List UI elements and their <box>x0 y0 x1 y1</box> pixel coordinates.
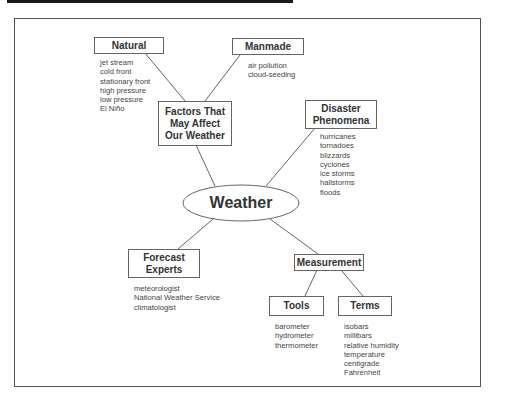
node-terms: Terms <box>338 296 392 316</box>
node-measurement-label: Measurement <box>297 257 361 269</box>
node-terms-label: Terms <box>350 300 379 312</box>
list-item: hailstorms <box>320 178 355 187</box>
list-item: air pollution <box>248 61 295 70</box>
node-tools-label: Tools <box>284 300 310 312</box>
node-disaster: Disaster Phenomena <box>305 100 377 129</box>
list-item: stationary front <box>100 77 150 86</box>
manmade-items: air pollution cloud-seeding <box>248 61 295 80</box>
node-forecast-line-2: Experts <box>146 264 183 276</box>
line-disaster-weather <box>266 128 315 186</box>
list-item: blizzards <box>320 151 355 160</box>
list-item: barometer <box>275 322 318 331</box>
center-label-weather: Weather <box>183 185 299 221</box>
list-item: hydrometer <box>275 331 318 340</box>
node-forecast-line-1: Forecast <box>143 252 185 264</box>
list-item: ice storms <box>320 169 355 178</box>
list-item: temperature <box>344 350 399 359</box>
line-manmade-factors <box>205 55 240 101</box>
line-measurement-terms <box>341 270 363 296</box>
node-manmade-label: Manmade <box>245 41 291 53</box>
line-factors-weather <box>196 145 215 186</box>
node-factors-line-1: Factors That <box>165 106 225 118</box>
list-item: meteorologist <box>134 284 220 293</box>
node-factors-line-3: Our Weather <box>165 130 225 142</box>
node-disaster-line-2: Phenomena <box>313 115 370 127</box>
list-item: floods <box>320 188 355 197</box>
forecast-items: meteorologist National Weather Service c… <box>134 284 220 312</box>
list-item: El Niño <box>100 104 150 113</box>
list-item: isobars <box>344 322 399 331</box>
list-item: climatologist <box>134 303 220 312</box>
line-measurement-tools <box>305 270 317 296</box>
node-manmade: Manmade <box>232 38 304 55</box>
line-weather-measurement <box>270 219 318 254</box>
node-natural: Natural <box>94 37 164 54</box>
list-item: thermometer <box>275 341 318 350</box>
line-weather-forecast <box>178 219 213 249</box>
tools-items: barometer hydrometer thermometer <box>275 322 318 350</box>
node-tools: Tools <box>269 296 324 316</box>
list-item: tornadoes <box>320 141 355 150</box>
node-factors: Factors That May Affect Our Weather <box>158 101 232 146</box>
list-item: hurricanes <box>320 132 355 141</box>
list-item: National Weather Service <box>134 293 220 302</box>
natural-items: jet stream cold front stationary front h… <box>100 58 150 114</box>
list-item: high pressure <box>100 86 150 95</box>
list-item: jet stream <box>100 58 150 67</box>
disaster-items: hurricanes tornadoes blizzards cyclones … <box>320 132 355 197</box>
node-disaster-line-1: Disaster <box>321 103 360 115</box>
list-item: relative humidity <box>344 341 399 350</box>
list-item: low pressure <box>100 95 150 104</box>
node-factors-line-2: May Affect <box>170 118 220 130</box>
node-measurement: Measurement <box>294 254 364 271</box>
line-natural-factors <box>145 53 185 101</box>
terms-items: isobars millibars relative humidity temp… <box>344 322 399 378</box>
node-forecast: Forecast Experts <box>128 249 200 278</box>
node-natural-label: Natural <box>112 40 146 52</box>
list-item: Fahrenheit <box>344 368 399 377</box>
list-item: cyclones <box>320 160 355 169</box>
list-item: centigrade <box>344 359 399 368</box>
list-item: millibars <box>344 331 399 340</box>
list-item: cloud-seeding <box>248 70 295 79</box>
list-item: cold front <box>100 67 150 76</box>
